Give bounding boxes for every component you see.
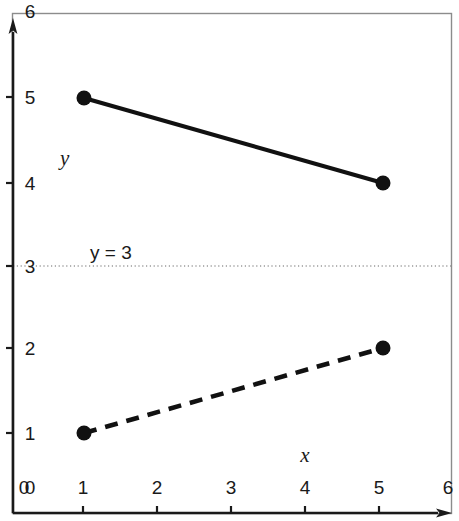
line-chart-svg: 6 5 4 3 2 1 0 0 1 2 3 4 5 6 y = 3 y x <box>0 0 459 521</box>
x-axis-label: x <box>299 443 310 467</box>
series-dashed-marker-1 <box>376 341 391 356</box>
series-solid-marker-0 <box>77 91 92 106</box>
y-tick-label-3: 3 <box>25 256 36 277</box>
chart-figure: 6 5 4 3 2 1 0 0 1 2 3 4 5 6 y = 3 y x <box>0 0 459 521</box>
reference-line-annotation: y = 3 <box>90 242 132 263</box>
y-tick-label-1: 1 <box>25 423 36 444</box>
x-tick-label-0: 0 <box>19 477 30 498</box>
y-tick-label-5: 5 <box>25 87 36 108</box>
y-tick-label-2: 2 <box>25 338 36 359</box>
series-solid-marker-1 <box>376 176 391 191</box>
y-tick-label-4: 4 <box>25 173 36 194</box>
x-tick-label-5: 5 <box>374 477 385 498</box>
plot-frame <box>13 14 452 514</box>
x-tick-label-1: 1 <box>78 477 89 498</box>
x-tick-label-2: 2 <box>152 477 163 498</box>
x-tick-label-4: 4 <box>300 477 311 498</box>
y-axis-label: y <box>58 146 70 170</box>
series-dashed-line <box>84 348 383 433</box>
x-tick-label-3: 3 <box>226 477 237 498</box>
series-solid-line <box>84 98 383 183</box>
x-tick-label-6: 6 <box>443 477 454 498</box>
y-tick-label-6: 6 <box>25 1 36 22</box>
series-dashed-marker-0 <box>77 426 92 441</box>
